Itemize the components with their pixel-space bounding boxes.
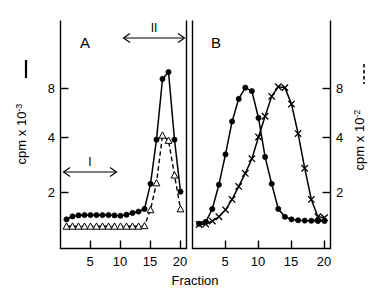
left-y-axis-title: cpm x 10-3 <box>14 104 29 165</box>
data-point-filled-circle <box>276 206 281 211</box>
data-point-filled-circle <box>136 209 141 214</box>
data-point-filled-circle <box>296 218 301 223</box>
data-point-filled-circle <box>154 137 159 142</box>
panel-b-xtick-label-5: 5 <box>221 254 228 269</box>
data-point-filled-circle <box>322 218 327 223</box>
panel-b-xtick-label-15: 15 <box>284 254 298 269</box>
panel-a-title: A <box>80 34 90 51</box>
data-point-filled-circle <box>315 218 320 223</box>
data-point-filled-circle <box>249 89 254 94</box>
data-point-filled-circle <box>94 212 99 217</box>
data-point-filled-circle <box>82 212 87 217</box>
x-axis-title: Fraction <box>172 273 219 288</box>
data-point-filled-circle <box>166 69 171 74</box>
panel-b-xtick-label-10: 10 <box>251 254 265 269</box>
data-point-filled-circle <box>210 206 215 211</box>
data-point-filled-circle <box>203 219 208 224</box>
right-y-axis-title: cpm x 10-2 <box>352 110 367 171</box>
panel-b-title: B <box>211 34 221 51</box>
panel-a-ytick-label-4: 4 <box>48 130 55 145</box>
data-point-filled-circle <box>269 181 274 186</box>
panel-b-ytick-label-8: 8 <box>336 81 343 96</box>
panel-b-xtick-label-20: 20 <box>317 254 331 269</box>
data-point-filled-circle <box>130 210 135 215</box>
data-point-filled-circle <box>112 213 117 218</box>
data-point-filled-circle <box>223 152 228 157</box>
data-point-filled-circle <box>64 217 69 222</box>
data-point-filled-circle <box>243 85 248 90</box>
panel-a-ytick-label-2: 2 <box>48 185 55 200</box>
data-point-filled-circle <box>236 96 241 101</box>
data-point-filled-circle <box>118 213 123 218</box>
data-point-filled-circle <box>216 182 221 187</box>
data-point-filled-circle <box>178 189 183 194</box>
data-point-filled-circle <box>148 181 153 186</box>
region-i-label: I <box>88 155 91 169</box>
data-point-filled-circle <box>88 212 93 217</box>
data-point-filled-circle <box>230 119 235 124</box>
panel-a-xtick-label-5: 5 <box>86 254 93 269</box>
data-point-filled-circle <box>197 221 202 226</box>
scientific-figure: 8 4 2 5 10 15 20 A I <box>0 0 377 291</box>
data-point-filled-circle <box>282 214 287 219</box>
panel-a-xtick-label-10: 10 <box>113 254 127 269</box>
data-point-filled-circle <box>70 214 75 219</box>
data-point-filled-circle <box>172 137 177 142</box>
data-point-filled-circle <box>160 76 165 81</box>
data-point-filled-circle <box>263 154 268 159</box>
data-point-filled-circle <box>76 213 81 218</box>
panel-b-ytick-label-2: 2 <box>336 185 343 200</box>
panel-a-xtick-label-15: 15 <box>143 254 157 269</box>
region-ii-label: II <box>151 21 158 35</box>
data-point-filled-circle <box>289 217 294 222</box>
panel-a-xtick-label-20: 20 <box>173 254 187 269</box>
data-point-filled-circle <box>142 206 147 211</box>
panel-b-ytick-label-4: 4 <box>336 130 343 145</box>
data-point-filled-circle <box>302 218 307 223</box>
figure-background <box>0 0 377 291</box>
figure-container: 8 4 2 5 10 15 20 A I <box>0 0 377 291</box>
panel-a-ytick-label-8: 8 <box>48 81 55 96</box>
data-point-filled-circle <box>309 218 314 223</box>
data-point-filled-circle <box>256 115 261 120</box>
data-point-filled-circle <box>100 212 105 217</box>
data-point-filled-circle <box>124 212 129 217</box>
data-point-filled-circle <box>106 212 111 217</box>
